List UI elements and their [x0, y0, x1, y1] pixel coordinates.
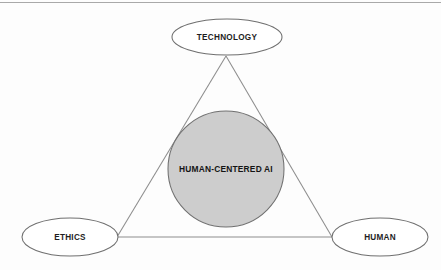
human-label: HUMAN: [364, 233, 396, 242]
diagram-canvas: HUMAN-CENTERED AI TECHNOLOGY ETHICS HUMA…: [0, 0, 441, 270]
core-node[interactable]: HUMAN-CENTERED AI: [168, 111, 284, 227]
triangle-diagram: HUMAN-CENTERED AI TECHNOLOGY ETHICS HUMA…: [0, 0, 441, 270]
ethics-label: ETHICS: [54, 233, 86, 242]
node-human[interactable]: HUMAN: [332, 218, 428, 256]
technology-label: TECHNOLOGY: [197, 33, 258, 42]
node-ethics[interactable]: ETHICS: [22, 218, 118, 256]
core-label: HUMAN-CENTERED AI: [179, 164, 273, 174]
node-technology[interactable]: TECHNOLOGY: [172, 19, 282, 55]
